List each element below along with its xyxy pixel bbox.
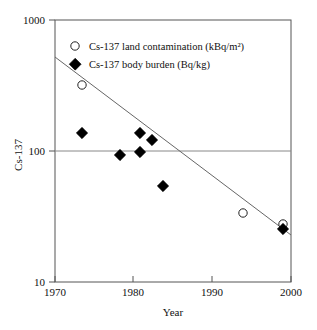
data-point-filled-diamond xyxy=(76,127,87,138)
data-point-open-circle xyxy=(239,209,247,217)
trendline xyxy=(55,57,291,235)
legend-label-body-burden: Cs-137 body burden (Bq/kg) xyxy=(89,59,211,71)
data-point-filled-diamond xyxy=(134,146,145,157)
x-axis-label-1980: 1980 xyxy=(122,286,145,298)
chart-figure: 1000 100 10 1970 1980 1990 2000 Cs-137 Y… xyxy=(0,0,317,330)
data-point-filled-diamond xyxy=(146,134,157,145)
legend-filled-diamond-icon xyxy=(69,58,81,70)
data-point-filled-diamond xyxy=(134,127,145,138)
x-axis-label-1970: 1970 xyxy=(44,286,67,298)
data-point-open-circle xyxy=(78,81,86,89)
y-axis-label-1000: 1000 xyxy=(23,14,46,26)
chart-svg: 1000 100 10 1970 1980 1990 2000 Cs-137 Y… xyxy=(0,0,317,330)
legend: Cs-137 land contamination (kBq/m²) Cs-13… xyxy=(69,41,244,71)
y-axis-label-100: 100 xyxy=(29,145,46,157)
x-axis-title: Year xyxy=(163,306,184,318)
data-point-filled-diamond xyxy=(157,180,168,191)
y-axis-title: Cs-137 xyxy=(12,139,24,171)
legend-open-circle-icon xyxy=(71,42,79,50)
legend-label-land-contamination: Cs-137 land contamination (kBq/m²) xyxy=(89,41,245,53)
x-axis-label-2000: 2000 xyxy=(280,286,303,298)
x-axis-label-1990: 1990 xyxy=(201,286,224,298)
